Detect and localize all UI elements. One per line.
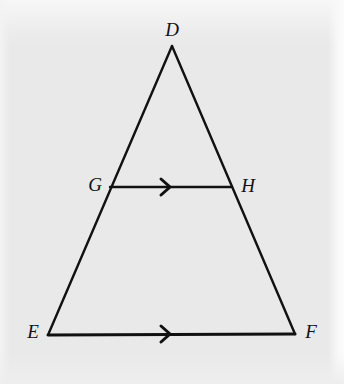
- vertex-label-e: E: [27, 322, 39, 341]
- segment-df: [172, 46, 295, 334]
- vertex-label-f: F: [305, 322, 317, 341]
- geometry-figure: D E F G H: [0, 0, 344, 384]
- arrow-mark-group: [161, 179, 170, 342]
- vertex-label-h: H: [241, 176, 255, 195]
- vertex-label-g: G: [88, 175, 102, 194]
- segment-de: [48, 46, 172, 335]
- vertex-label-d: D: [165, 20, 179, 39]
- segment-group: [48, 46, 295, 335]
- triangle-diagram-svg: [0, 0, 344, 384]
